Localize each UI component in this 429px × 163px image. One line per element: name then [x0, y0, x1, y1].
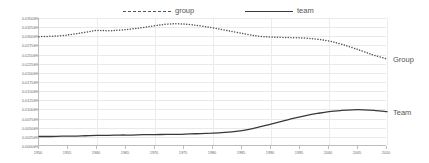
x-tick-label: 1975: [179, 150, 187, 155]
chart-legend: group team: [0, 4, 429, 18]
x-tick-label: 2000: [324, 150, 332, 155]
series-label-team: Team: [393, 107, 411, 116]
gridline-vertical: [387, 18, 388, 145]
line-chart: group team 0.03500%0.03250%0.03000%0.027…: [0, 0, 429, 163]
x-tick-label: 2005: [353, 150, 361, 155]
x-tick-mark: [67, 146, 68, 149]
x-tick-label: 1970: [150, 150, 158, 155]
x-tick-mark: [183, 146, 184, 149]
x-tick-mark: [328, 146, 329, 149]
x-tick-label: 1965: [121, 150, 129, 155]
x-tick-label: 1995: [295, 150, 303, 155]
plot-area: [38, 18, 386, 146]
x-tick-label: 1950: [34, 150, 42, 155]
series-line-team: [39, 110, 387, 137]
legend-label-team: team: [297, 7, 314, 15]
x-tick-label: 1955: [63, 150, 71, 155]
x-tick-label: 1980: [208, 150, 216, 155]
legend-item-group: group: [123, 4, 194, 18]
x-tick-mark: [38, 146, 39, 149]
x-tick-label: 2010: [382, 150, 390, 155]
series-lines: [39, 18, 387, 146]
legend-swatch-dashed-icon: [123, 11, 171, 12]
x-tick-mark: [154, 146, 155, 149]
x-tick-mark: [299, 146, 300, 149]
x-tick-mark: [212, 146, 213, 149]
x-tick-label: 1990: [266, 150, 274, 155]
legend-label-group: group: [175, 7, 194, 15]
x-tick-mark: [125, 146, 126, 149]
x-tick-label: 1960: [92, 150, 100, 155]
x-tick-label: 1985: [237, 150, 245, 155]
series-label-group: Group: [393, 54, 414, 63]
legend-item-team: team: [245, 4, 314, 18]
legend-swatch-solid-icon: [245, 11, 293, 12]
x-tick-mark: [96, 146, 97, 149]
x-tick-mark: [386, 146, 387, 149]
series-line-group: [39, 24, 387, 59]
x-tick-mark: [270, 146, 271, 149]
x-tick-mark: [357, 146, 358, 149]
x-tick-mark: [241, 146, 242, 149]
